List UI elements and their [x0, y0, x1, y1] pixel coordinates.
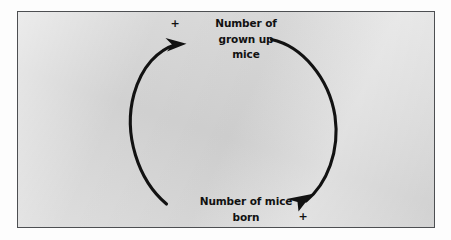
polarity-sign-top-left: + [168, 18, 182, 29]
arrow-grown-to-born-path [272, 40, 337, 202]
arrow-born-to-grown-path [130, 45, 176, 205]
node-label-grown-up-mice: Number of grown up mice [166, 16, 326, 63]
polarity-sign-bottom-right: + [296, 211, 310, 222]
figure-panel: Number of grown up mice Number of mice b… [17, 11, 435, 228]
causal-loop-diagram: Number of grown up mice Number of mice b… [0, 0, 451, 240]
